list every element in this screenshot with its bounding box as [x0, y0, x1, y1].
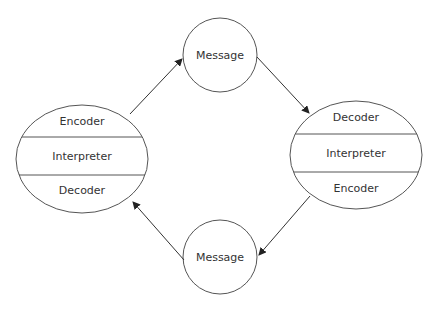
right-node-label-encoder: Encoder — [334, 182, 379, 195]
bottom-message-label: Message — [196, 251, 244, 264]
left-node-label-decoder: Decoder — [59, 184, 105, 197]
left-node-label-interpreter: Interpreter — [52, 150, 111, 163]
arrow-top-message-to-right — [257, 57, 309, 113]
right-node-label-interpreter: Interpreter — [326, 147, 385, 160]
arrow-left-to-top-message — [130, 59, 182, 114]
left-node-label-encoder: Encoder — [60, 115, 105, 128]
right-node-label-decoder: Decoder — [333, 111, 379, 124]
top-message-label: Message — [196, 49, 244, 62]
arrow-right-to-bottom-message — [259, 196, 310, 255]
arrow-bottom-message-to-left — [133, 202, 184, 260]
